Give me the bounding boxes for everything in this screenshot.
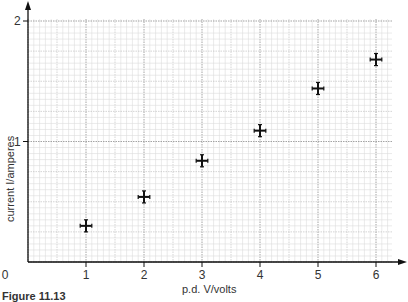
x-tick-label: 2 [141,268,148,282]
x-tick-label: 4 [257,268,264,282]
x-tick-label: 1 [83,268,90,282]
data-point [370,54,382,66]
x-tick-label: 6 [373,268,380,282]
x-axis-label: p.d. V/volts [182,283,236,295]
data-point [312,82,324,94]
figure-caption: Figure 11.13 [2,290,66,302]
data-point [196,155,208,167]
data-point [138,191,150,203]
x-tick-label: 3 [199,268,206,282]
data-point [80,220,92,232]
x-tick-label: 0 [2,268,9,282]
x-tick-label: 5 [315,268,322,282]
y-tick-label: 2 [14,14,21,28]
data-point [254,125,266,137]
y-axis-label: current I/amperes [4,136,16,222]
